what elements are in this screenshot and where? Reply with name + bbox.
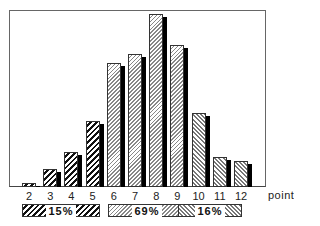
bar-shadow <box>100 124 104 187</box>
bar-shadow <box>57 172 61 187</box>
bar-2 <box>22 183 36 187</box>
x-tick-label: 9 <box>169 190 185 202</box>
bar-11 <box>213 157 227 187</box>
bar-9 <box>170 45 184 187</box>
x-tick-label: 10 <box>191 190 207 202</box>
x-tick-label: 5 <box>85 190 101 202</box>
bar-12 <box>234 161 248 187</box>
x-tick-label: 8 <box>148 190 164 202</box>
bar-shadow <box>142 57 146 187</box>
x-tick-label: 12 <box>233 190 249 202</box>
legend-group-high: 16% <box>178 204 242 217</box>
x-axis-unit-label: points <box>268 189 294 201</box>
bar-shadow <box>248 164 252 187</box>
bar-shadow <box>206 116 210 187</box>
legend-group-low: 15% <box>22 204 100 217</box>
bar-3 <box>43 169 57 187</box>
x-tick-label: 4 <box>63 190 79 202</box>
bar-shadow <box>121 66 125 187</box>
bar-shadow <box>78 155 82 187</box>
bar-shadow <box>163 17 167 187</box>
x-tick-label: 11 <box>212 190 228 202</box>
x-tick-label: 3 <box>42 190 58 202</box>
bar-shadow <box>184 48 188 187</box>
bar-7 <box>128 54 142 187</box>
x-tick-label: 6 <box>106 190 122 202</box>
bar-4 <box>64 152 78 187</box>
x-tick-label: 7 <box>127 190 143 202</box>
bar-6 <box>107 63 121 187</box>
bar-shadow <box>36 186 40 187</box>
bar-10 <box>192 113 206 187</box>
x-tick-label: 2 <box>21 190 37 202</box>
bar-5 <box>86 121 100 187</box>
bar-shadow <box>227 160 231 187</box>
bar-8 <box>149 14 163 187</box>
legend-group-mid: 69% <box>108 204 186 217</box>
